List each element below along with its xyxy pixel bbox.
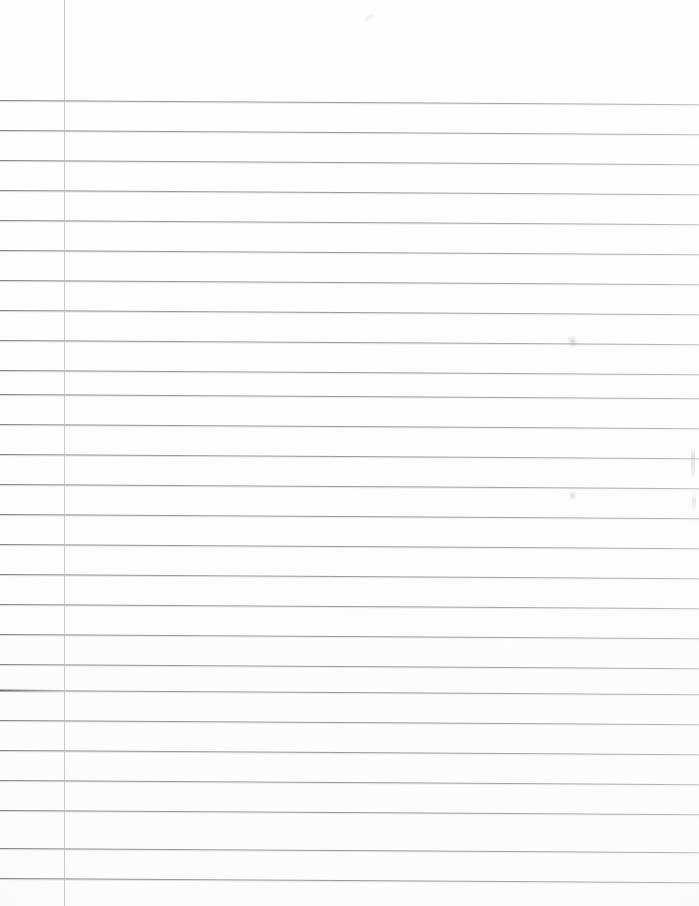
edge-mark-right xyxy=(691,446,695,480)
edge-mark-right-lower xyxy=(692,492,696,512)
paper-texture xyxy=(0,0,699,906)
ruled-line xyxy=(0,340,699,345)
ruled-line xyxy=(0,130,699,135)
ruled-line xyxy=(0,100,699,105)
ruled-line xyxy=(0,750,699,755)
ruled-line xyxy=(0,310,699,315)
ruled-line xyxy=(0,780,699,785)
ruled-line xyxy=(0,250,699,255)
ruled-line xyxy=(0,190,699,195)
speck-top-center xyxy=(361,11,377,23)
ruled-line xyxy=(0,664,699,669)
ruled-line xyxy=(0,160,699,165)
ruled-line xyxy=(0,574,699,579)
vertical-margin-rule xyxy=(64,0,65,906)
ruled-line xyxy=(0,454,699,459)
ruled-line xyxy=(0,634,699,639)
ruled-line xyxy=(0,280,699,285)
ruled-line xyxy=(0,220,699,225)
ruled-line xyxy=(0,394,699,399)
smudge-mid-right xyxy=(569,491,576,500)
ruled-line xyxy=(0,424,699,429)
smudge-upper-right xyxy=(567,335,579,348)
ruled-line xyxy=(0,720,699,725)
page-header-blank-area xyxy=(0,0,699,100)
ruled-line xyxy=(0,514,699,519)
ruled-line xyxy=(0,690,699,695)
notebook-page xyxy=(0,0,699,906)
ruled-line xyxy=(0,878,699,883)
ruled-line xyxy=(0,848,699,853)
ruled-line xyxy=(0,604,699,609)
ruled-line xyxy=(0,544,699,549)
ruled-line xyxy=(0,370,699,375)
ruled-line xyxy=(0,810,699,815)
ruled-line xyxy=(0,484,699,489)
